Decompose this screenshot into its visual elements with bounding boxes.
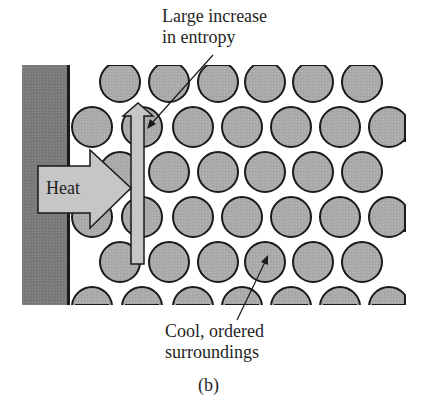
- particle: [293, 242, 333, 282]
- particle: [198, 152, 238, 192]
- entropy-diagram: Large increase in entropy Heat Cool, ord…: [0, 0, 427, 404]
- surroundings-label: Cool, ordered surroundings: [165, 321, 264, 363]
- particle: [149, 62, 189, 102]
- particle: [320, 197, 360, 237]
- entropy-label-line1: Large increase: [162, 6, 267, 27]
- particle: [320, 107, 360, 147]
- particle: [271, 107, 311, 147]
- particle: [320, 287, 360, 327]
- particle: [342, 242, 382, 282]
- particle: [149, 242, 189, 282]
- particle: [198, 62, 238, 102]
- particle: [122, 287, 162, 327]
- particle: [271, 197, 311, 237]
- particle: [369, 287, 409, 327]
- particle: [245, 152, 285, 192]
- particle: [72, 107, 112, 147]
- particle: [222, 197, 262, 237]
- particle: [342, 62, 382, 102]
- particle: [173, 197, 213, 237]
- particle: [342, 152, 382, 192]
- particle: [149, 152, 189, 192]
- surroundings-label-line2: surroundings: [165, 342, 264, 363]
- particle: [173, 107, 213, 147]
- particle: [271, 287, 311, 327]
- particle: [369, 197, 409, 237]
- entropy-label-line2: in entropy: [162, 27, 267, 48]
- particle: [245, 62, 285, 102]
- figure-caption: (b): [198, 375, 219, 396]
- particle: [198, 242, 238, 282]
- particle: [222, 107, 262, 147]
- particle: [100, 62, 140, 102]
- surroundings-label-line1: Cool, ordered: [165, 321, 264, 342]
- particle: [293, 62, 333, 102]
- particle: [293, 152, 333, 192]
- particle: [72, 287, 112, 327]
- entropy-label: Large increase in entropy: [162, 6, 267, 48]
- particle: [369, 107, 409, 147]
- heat-label: Heat: [46, 178, 80, 199]
